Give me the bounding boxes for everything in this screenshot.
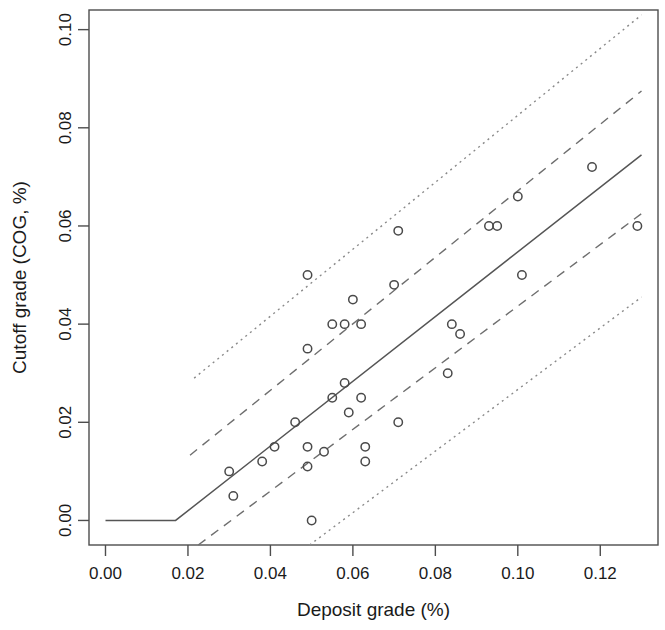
data-point-marker — [357, 320, 365, 328]
fit-line-path — [105, 155, 641, 521]
data-point-marker — [340, 320, 348, 328]
scatter-plot-canvas: 0.000.020.040.060.080.100.12 0.000.020.0… — [0, 0, 665, 630]
data-point-marker — [448, 320, 456, 328]
interval-bands — [190, 15, 641, 545]
data-point-marker — [394, 227, 402, 235]
x-tick-label: 0.02 — [171, 564, 204, 583]
y-tick-label: 0.00 — [56, 504, 75, 537]
data-point-marker — [357, 394, 365, 402]
data-point-marker — [390, 281, 398, 289]
data-point-marker — [340, 379, 348, 387]
x-tick-label: 0.08 — [419, 564, 452, 583]
chart-figure: 0.000.020.040.060.080.100.12 0.000.020.0… — [0, 0, 665, 630]
prediction-band-lower — [310, 297, 642, 545]
data-point-marker — [270, 443, 278, 451]
data-point-marker — [361, 443, 369, 451]
data-point-marker — [361, 457, 369, 465]
regression-fit-line — [105, 155, 641, 521]
data-point-marker — [307, 516, 315, 524]
data-point-marker — [518, 271, 526, 279]
data-point-marker — [444, 369, 452, 377]
plot-border — [89, 10, 658, 545]
x-tick-label: 0.12 — [584, 564, 617, 583]
confidence-band-lower — [198, 214, 641, 545]
data-point-marker — [514, 192, 522, 200]
data-point-marker — [328, 320, 336, 328]
data-point-marker — [303, 344, 311, 352]
data-point-marker — [345, 408, 353, 416]
x-axis-ticks: 0.000.020.040.060.080.100.12 — [89, 545, 617, 583]
data-point-marker — [394, 418, 402, 426]
y-tick-label: 0.08 — [56, 111, 75, 144]
x-tick-label: 0.06 — [336, 564, 369, 583]
y-tick-label: 0.04 — [56, 308, 75, 341]
x-tick-label: 0.10 — [501, 564, 534, 583]
x-axis-label: Deposit grade (%) — [297, 599, 450, 620]
data-point-marker — [229, 492, 237, 500]
data-point-marker — [291, 418, 299, 426]
data-point-marker — [258, 457, 266, 465]
data-point-marker — [320, 448, 328, 456]
x-tick-label: 0.04 — [254, 564, 287, 583]
data-point-marker — [303, 443, 311, 451]
data-point-marker — [485, 222, 493, 230]
data-point-marker — [303, 271, 311, 279]
data-point-marker — [633, 222, 641, 230]
prediction-band-upper — [194, 15, 641, 378]
data-point-marker — [588, 163, 596, 171]
confidence-band-upper — [190, 91, 641, 455]
data-point-marker — [349, 295, 357, 303]
y-tick-label: 0.10 — [56, 13, 75, 46]
y-axis-label: Cutoff grade (COG, %) — [9, 181, 30, 374]
x-tick-label: 0.00 — [89, 564, 122, 583]
y-tick-label: 0.06 — [56, 209, 75, 242]
data-point-marker — [493, 222, 501, 230]
data-point-marker — [225, 467, 233, 475]
plot-frame — [89, 10, 658, 545]
y-axis-ticks: 0.000.020.040.060.080.10 — [56, 13, 89, 537]
y-tick-label: 0.02 — [56, 406, 75, 439]
data-point-marker — [456, 330, 464, 338]
